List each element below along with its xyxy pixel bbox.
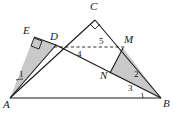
vertex-label-C: C [90,1,97,12]
geometry-canvas [0,0,175,118]
vertex-label-D: D [50,31,58,42]
geometry-figure: A B C E D M N 1 2 3 4 5 [0,0,175,118]
vertex-label-E: E [23,25,30,36]
angle-label-4: 4 [77,50,82,59]
vertex-label-A: A [3,99,10,110]
angle-label-5: 5 [99,37,104,46]
angle-label-1: 1 [19,70,24,79]
vertex-label-N: N [100,70,107,81]
vertex-label-M: M [124,34,133,45]
segment-DB [56,45,161,98]
angle-arc-3-icon [142,93,143,98]
angle-label-3: 3 [128,84,133,93]
angle-label-2: 2 [134,70,139,79]
shaded-triangle-AED [10,37,56,98]
vertex-label-B: B [163,98,170,109]
